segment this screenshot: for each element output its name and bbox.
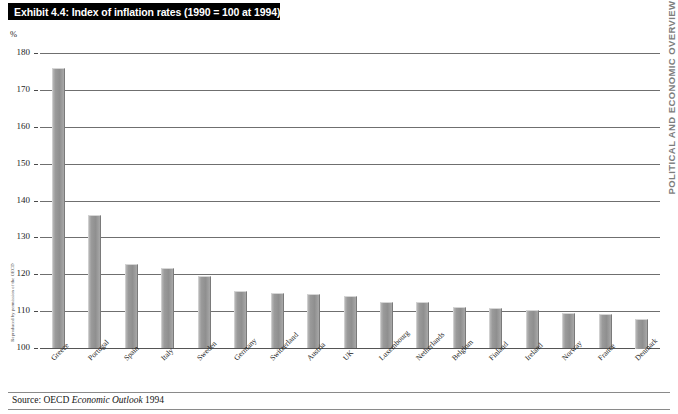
bar-portugal — [88, 215, 101, 348]
y-axis-tick-mark-110 — [34, 311, 38, 312]
y-axis-tick-label-120: 120 — [4, 268, 30, 278]
gridline-150 — [40, 164, 660, 165]
y-axis-tick-label-160: 160 — [4, 121, 30, 131]
source-year: 1994 — [143, 395, 164, 405]
exhibit-page: Exhibit 4.4: Index of inflation rates (1… — [0, 0, 678, 414]
gridline-130 — [40, 237, 660, 238]
left-margin-credit: Reproduced by permission of the OECD — [10, 253, 15, 353]
chart-plot-area: % 100110120130140150160170180 GreecePort… — [0, 0, 678, 414]
y-axis-tick-mark-130 — [34, 237, 38, 238]
gridline-170 — [40, 90, 660, 91]
bar-germany — [234, 291, 247, 348]
right-margin-running-head: POLITICAL AND ECONOMIC OVERVIEW — [666, 0, 677, 203]
source-divider-bottom — [8, 409, 670, 410]
y-axis-tick-mark-160 — [34, 127, 38, 128]
source-divider-top — [8, 392, 670, 393]
bar-sweden — [198, 276, 211, 348]
bar-uk — [344, 296, 357, 348]
x-axis-label-uk: UK — [341, 348, 355, 362]
y-axis-tick-label-180: 180 — [4, 47, 30, 57]
gridline-140 — [40, 201, 660, 202]
gridline-160 — [40, 127, 660, 128]
bar-italy — [161, 268, 174, 348]
source-note: Source: OECD Economic Outlook 1994 — [12, 395, 164, 405]
y-axis-tick-label-170: 170 — [4, 84, 30, 94]
source-publication: Economic Outlook — [72, 395, 143, 405]
y-axis-tick-mark-170 — [34, 90, 38, 91]
y-axis-tick-mark-140 — [34, 201, 38, 202]
y-axis-tick-label-100: 100 — [4, 342, 30, 352]
y-axis-tick-label-150: 150 — [4, 158, 30, 168]
y-axis-tick-mark-150 — [34, 164, 38, 165]
bar-greece — [52, 68, 65, 348]
y-axis-tick-label-130: 130 — [4, 231, 30, 241]
y-axis-tick-mark-180 — [34, 53, 38, 54]
y-axis-tick-label-140: 140 — [4, 195, 30, 205]
bar-austria — [307, 294, 320, 348]
bar-switzerland — [271, 293, 284, 348]
bar-spain — [125, 264, 138, 348]
y-axis-unit-label: % — [10, 29, 17, 39]
source-prefix: Source: OECD — [12, 395, 72, 405]
y-axis-tick-mark-100 — [34, 348, 38, 349]
y-axis-tick-mark-120 — [34, 274, 38, 275]
y-axis-tick-label-110: 110 — [4, 305, 30, 315]
gridline-180 — [40, 53, 660, 54]
